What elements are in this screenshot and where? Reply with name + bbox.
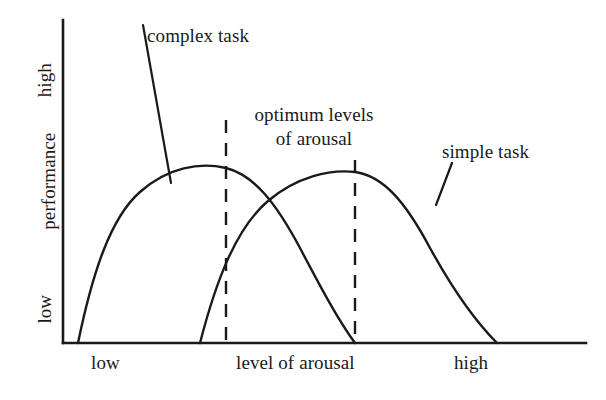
y-axis-low-label: low: [34, 286, 56, 332]
complex-task-leader-line: [143, 25, 171, 183]
chart-canvas: [0, 0, 606, 400]
performance-arousal-chart: high performance low low level of arousa…: [0, 0, 606, 400]
x-axis-low-label: low: [91, 352, 120, 374]
optimum-arousal-annotation-line2: of arousal: [234, 128, 394, 150]
x-axis-high-label: high: [454, 352, 488, 374]
optimum-arousal-annotation-line1: optimum levels: [234, 104, 394, 126]
complex-task-label: complex task: [147, 25, 249, 47]
y-axis-high-label: high: [34, 56, 56, 104]
simple-task-label: simple task: [442, 141, 529, 163]
simple-task-leader-line: [436, 163, 452, 205]
y-axis-title: performance: [38, 116, 60, 246]
complex-task-curve: [78, 166, 355, 343]
x-axis-title: level of arousal: [236, 352, 355, 374]
simple-task-curve: [200, 171, 497, 343]
